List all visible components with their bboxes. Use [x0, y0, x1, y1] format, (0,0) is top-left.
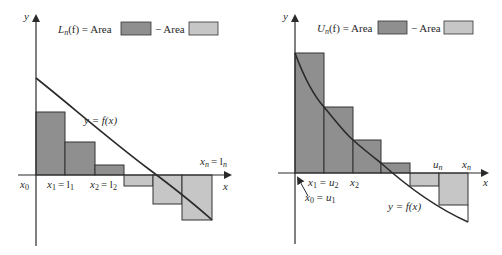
legend-swatch-dark — [378, 21, 407, 34]
tick-x2: x2 — [349, 176, 359, 190]
y-axis-label: y — [282, 10, 288, 22]
rect-positive-4 — [381, 163, 410, 173]
upper-sum-legend: Un(f) = Area − Area — [317, 21, 473, 36]
x-axis-label: x — [222, 180, 228, 192]
rect-positive-2 — [324, 107, 353, 173]
tick-x0: x0= u1 — [304, 191, 336, 205]
rect-negative-1 — [124, 175, 153, 186]
lower-sum-rectangles — [36, 112, 212, 220]
tick-xn: xn= ln — [199, 155, 227, 169]
rect-positive-3 — [95, 165, 124, 175]
upper-sum-diagram: y x y = f(x) x1= u2 x2 x0= u1 un xn Un(f… — [278, 10, 488, 244]
curve-label: y = f(x) — [387, 200, 421, 213]
rect-positive-1 — [36, 112, 65, 175]
y-axis-label: y — [23, 10, 29, 22]
rect-negative-2 — [439, 173, 468, 205]
legend-swatch-dark — [121, 22, 151, 35]
curve-label: y = f(x) — [83, 114, 117, 127]
tick-x2: x2= l2 — [89, 178, 117, 192]
tick-un: un — [433, 158, 443, 172]
rect-positive-2 — [65, 142, 95, 175]
lower-sum-diagram: y x y = f(x) x0 x1= l1 x2= l2 xn= ln Ln(… — [18, 10, 230, 246]
riemann-sums-diagram: y x y = f(x) x0 x1= l1 x2= l2 xn= ln Ln(… — [0, 0, 502, 255]
tick-x0: x0 — [19, 178, 29, 192]
lower-sum-legend: Ln(f) = Area − Area — [57, 22, 218, 37]
rect-positive-3 — [353, 140, 381, 173]
rect-negative-1 — [410, 173, 439, 186]
legend-formula: Ln(f) = Area — [57, 23, 112, 37]
tick-xn: xn — [461, 158, 471, 172]
legend-minus: − Area — [411, 22, 441, 34]
rect-positive-1 — [295, 53, 324, 173]
tick-x1: x1= l1 — [46, 178, 74, 192]
x-axis-label: x — [482, 176, 488, 188]
legend-formula: Un(f) = Area — [317, 22, 373, 36]
tick-x1: x1= u2 — [307, 176, 339, 190]
legend-minus: − Area — [155, 23, 185, 35]
legend-swatch-light — [189, 22, 218, 35]
rect-negative-2 — [153, 175, 182, 204]
legend-swatch-light — [444, 21, 473, 34]
